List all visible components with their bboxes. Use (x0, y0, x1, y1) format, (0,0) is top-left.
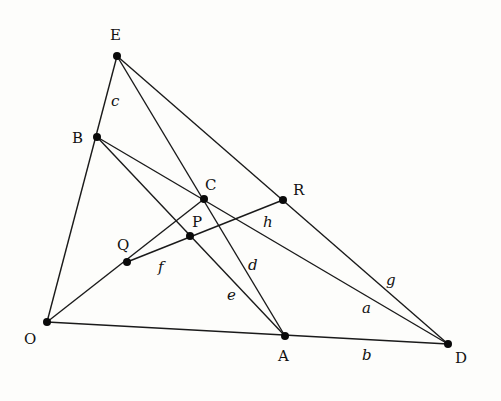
segment-label-b: b (362, 346, 372, 364)
segment-labels-group: abcdefgh (111, 92, 396, 364)
segment-label-d: d (248, 256, 258, 274)
segment-o-d (47, 322, 448, 344)
point-a (281, 332, 289, 340)
geometry-diagram: EBOQPCRAD abcdefgh (0, 0, 501, 401)
segment-b-d (97, 137, 448, 344)
point-label-c: C (205, 176, 216, 194)
segments-group (47, 56, 448, 344)
point-b (93, 133, 101, 141)
points-group (43, 52, 452, 348)
point-label-a: A (277, 347, 289, 365)
segment-label-e: e (227, 286, 236, 304)
point-label-r: R (293, 181, 305, 199)
point-e (113, 52, 121, 60)
point-label-o: O (24, 330, 36, 348)
segment-label-g: g (386, 271, 396, 289)
point-label-b: B (72, 129, 83, 147)
point-o (43, 318, 51, 326)
segment-label-a: a (362, 299, 371, 317)
segment-q-r (127, 200, 283, 262)
point-label-e: E (110, 26, 121, 44)
point-r (279, 196, 287, 204)
point-label-d: D (455, 349, 467, 367)
segment-e-o (47, 56, 117, 322)
point-p (186, 232, 194, 240)
point-d (444, 340, 452, 348)
point-q (123, 258, 131, 266)
segment-label-f: f (157, 258, 166, 276)
point-label-q: Q (117, 236, 129, 254)
segment-e-a (117, 56, 285, 336)
point-c (200, 195, 208, 203)
segment-label-c: c (111, 92, 120, 110)
segment-label-h: h (263, 213, 273, 231)
point-label-p: P (192, 213, 202, 231)
